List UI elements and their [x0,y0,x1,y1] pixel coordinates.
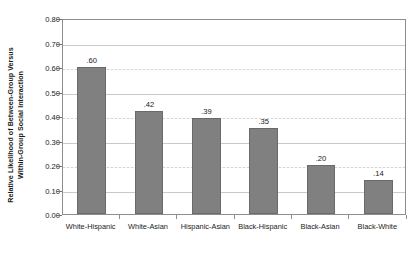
x-axis-category-label: Hispanic-Asian [181,222,230,231]
y-axis-title-line-2: Within-Group Social Interaction [16,71,26,179]
x-axis-tick-mark [176,215,177,219]
bar-value-label: .60 [69,56,114,65]
bar-value-label: .39 [184,107,229,116]
bar-group: .60 [77,20,106,214]
bar-chart: Relative Likelihood of Between-Group Ver… [0,0,420,255]
x-axis-tick-mark [348,215,349,219]
x-axis-category-labels: White-HispanicWhite-AsianHispanic-AsianB… [62,222,406,240]
y-axis-tick-label: 0.20 [26,162,60,171]
y-axis-tick-label: 0.80 [26,15,60,24]
x-axis-category-label: White-Hispanic [66,222,116,231]
y-axis-tick-label: 0.30 [26,137,60,146]
x-axis-tick-mark [406,215,407,219]
bar [307,165,336,214]
y-axis-tick-labels: 0.800.700.600.500.400.300.200.100.00 [26,0,60,255]
x-axis-category-label: Black-Hispanic [238,222,287,231]
y-axis-tick-label: 0.60 [26,64,60,73]
bar-group: .14 [364,20,393,214]
bar-value-label: .35 [241,117,286,126]
plot-area: .60.42.39.35.20.14 [62,19,406,215]
x-axis-tick-marks [62,215,406,220]
y-axis-tick-label: 0.70 [26,39,60,48]
bar-group: .20 [307,20,336,214]
bar-group: .35 [249,20,278,214]
bar-group: .42 [135,20,164,214]
y-axis-title-line-1: Relative Likelihood of Between-Group Ver… [6,47,16,203]
x-axis-category-label: Black-Asian [300,222,339,231]
bar-value-label: .14 [356,169,401,178]
bar-value-label: .20 [299,154,344,163]
bar [192,118,221,214]
y-axis-tick-label: 0.10 [26,186,60,195]
bar [77,67,106,214]
x-axis-category-label: White-Asian [128,222,168,231]
bar [135,111,164,214]
x-axis-tick-mark [234,215,235,219]
y-axis-tick-label: 0.00 [26,211,60,220]
y-axis-tick-label: 0.50 [26,88,60,97]
x-axis-tick-mark [291,215,292,219]
x-axis-category-label: Black-White [358,222,397,231]
bars-layer: .60.42.39.35.20.14 [63,20,405,214]
bar [249,128,278,214]
y-axis-tick-label: 0.40 [26,113,60,122]
bar-value-label: .42 [127,100,172,109]
x-axis-tick-mark [119,215,120,219]
bar [364,180,393,214]
bar-group: .39 [192,20,221,214]
